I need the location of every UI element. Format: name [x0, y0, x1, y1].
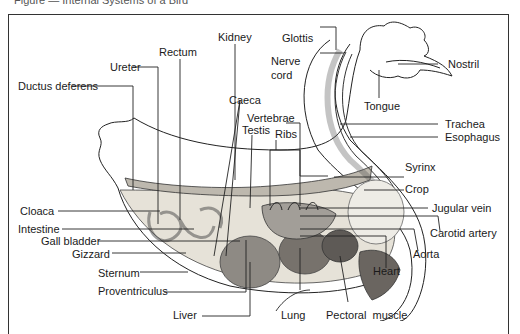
label-esophagus: Esophagus: [445, 131, 500, 143]
label-intestine: Intestine: [18, 223, 60, 235]
label-kidney: Kidney: [218, 31, 252, 43]
label-liver: Liver: [173, 309, 197, 321]
label-lung: Lung: [281, 309, 305, 321]
label-pectoral-muscle: Pectoral muscle: [326, 309, 407, 321]
label-cord: cord: [271, 69, 292, 81]
label-crop: Crop: [405, 183, 429, 195]
label-vertebrae: Vertebrae: [247, 112, 295, 124]
label-jugular-vein: Jugular vein: [432, 202, 491, 214]
label-ductus-deferens: Ductus deferens: [18, 80, 98, 92]
label-proventriculus: Proventriculus: [98, 285, 168, 297]
label-carotid-artery: Carotid artery: [430, 227, 497, 239]
label-gizzard: Gizzard: [72, 248, 110, 260]
label-glottis: Glottis: [282, 32, 313, 44]
label-ureter: Ureter: [110, 61, 141, 73]
label-testis: Testis: [242, 124, 270, 136]
label-heart: Heart: [373, 265, 400, 277]
label-syrinx: Syrinx: [405, 161, 436, 173]
label-cloaca: Cloaca: [20, 205, 54, 217]
label-nerve: Nerve: [271, 55, 300, 67]
label-gall-bladder: Gall bladder: [41, 235, 100, 247]
label-rectum: Rectum: [159, 46, 197, 58]
label-aorta: Aorta: [413, 248, 439, 260]
label-nostril: Nostril: [448, 58, 479, 70]
label-tongue: Tongue: [364, 100, 400, 112]
label-sternum: Sternum: [98, 267, 140, 279]
label-trachea: Trachea: [445, 118, 485, 130]
label-caeca: Caeca: [229, 94, 261, 106]
label-ribs: Ribs: [275, 128, 297, 140]
